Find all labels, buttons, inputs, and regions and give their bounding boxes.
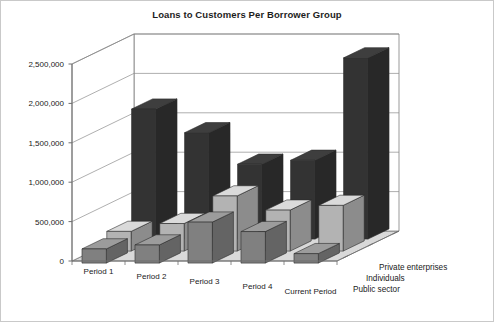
depth-axis-label: Private enterprises (379, 263, 447, 272)
x-axis-category-label: Period 2 (124, 272, 180, 282)
y-axis-tick-label: 1,000,000 (28, 178, 64, 187)
x-axis-category-label: Current Period (283, 287, 339, 297)
x-axis-category-label: Period 3 (177, 277, 233, 287)
chart-frame: Loans to Customers Per Borrower Group 05… (0, 0, 494, 322)
y-axis-tick-label: 500,000 (35, 217, 64, 226)
x-axis-category-label: Period 4 (230, 282, 286, 292)
y-axis-tick-label: 1,500,000 (28, 138, 64, 147)
y-axis-tick-label: 0 (60, 257, 64, 266)
depth-axis-label: Public sector (353, 285, 400, 294)
y-axis-tick-label: 2,500,000 (28, 60, 64, 69)
depth-axis-label: Individuals (366, 274, 405, 283)
y-axis-tick-label: 2,000,000 (28, 99, 64, 108)
x-axis-category-label: Period 1 (71, 267, 127, 277)
